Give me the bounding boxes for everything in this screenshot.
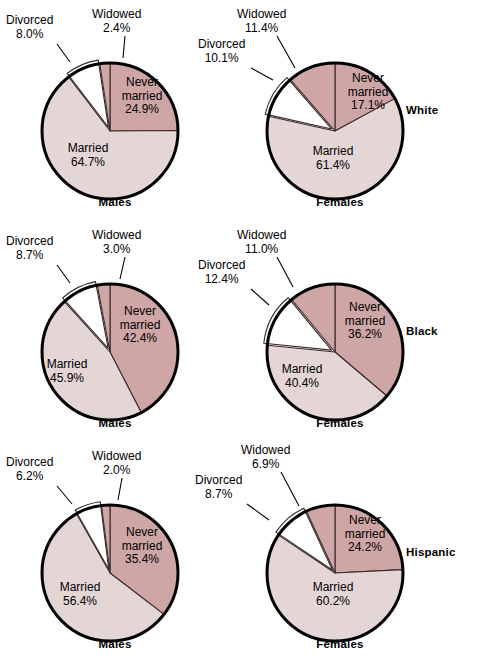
label-never-married-line1: Never <box>345 301 386 315</box>
sex-label-males: Males <box>0 638 230 650</box>
leader-line-widowed <box>123 36 125 58</box>
label-never-married: Nevermarried35.4% <box>122 526 163 567</box>
label-never-married-line2: married <box>345 527 386 541</box>
callout-divorced: Divorced8.0% <box>6 14 53 41</box>
callout-widowed-name: Widowed <box>92 229 141 243</box>
sex-label-females: Females <box>225 417 455 429</box>
pie-chart-black-males: Divorced8.7%Widowed3.0%Nevermarried42.4%… <box>0 221 230 443</box>
label-never-married-line1: Never <box>120 305 161 319</box>
label-married-line1: Married <box>282 363 323 377</box>
callout-widowed-name: Widowed <box>241 444 290 458</box>
label-married-line1: Married <box>60 581 101 595</box>
label-married-line2: 61.4% <box>313 158 354 172</box>
leader-line-widowed <box>118 478 122 500</box>
label-never-married-line2: married <box>348 85 389 99</box>
label-married-line2: 64.7% <box>68 155 109 169</box>
callout-divorced-name: Divorced <box>6 456 53 470</box>
label-married-line2: 56.4% <box>60 594 101 608</box>
label-never-married: Nevermarried24.2% <box>345 514 386 555</box>
label-married-line1: Married <box>313 145 354 159</box>
sex-label-females: Females <box>225 196 455 208</box>
label-married: Married64.7% <box>68 142 109 169</box>
label-married-line1: Married <box>47 358 88 372</box>
callout-divorced-value: 6.2% <box>6 470 53 484</box>
leader-line-widowed <box>277 36 295 68</box>
label-never-married-line2: married <box>122 89 163 103</box>
callout-widowed: Widowed11.4% <box>237 8 286 35</box>
label-married-line2: 60.2% <box>313 594 354 608</box>
label-married: Married61.4% <box>313 145 354 172</box>
pie-chart-white-males: Divorced8.0%Widowed2.4%Nevermarried24.9%… <box>0 0 230 222</box>
callout-widowed: Widowed11.0% <box>237 229 286 256</box>
callout-divorced-value: 10.1% <box>198 52 245 66</box>
callout-widowed-value: 11.0% <box>237 243 286 257</box>
callout-widowed: Widowed6.9% <box>241 444 290 471</box>
label-married: Married60.2% <box>313 581 354 608</box>
label-never-married-line2: married <box>120 318 161 332</box>
leader-line-divorced <box>57 265 70 283</box>
callout-widowed-value: 11.4% <box>237 22 286 36</box>
callout-widowed: Widowed2.4% <box>92 8 141 35</box>
callout-divorced-value: 12.4% <box>198 273 245 287</box>
callout-divorced-name: Divorced <box>6 235 53 249</box>
label-married-line2: 40.4% <box>282 376 323 390</box>
callout-divorced-value: 8.7% <box>195 488 242 502</box>
leader-line-divorced <box>251 289 269 305</box>
chart-row-white: WhiteDivorced8.0%Widowed2.4%Nevermarried… <box>0 0 488 222</box>
callout-divorced-name: Divorced <box>198 259 245 273</box>
label-never-married-line3: 24.2% <box>345 541 386 555</box>
label-never-married-line1: Never <box>122 526 163 540</box>
callout-widowed-value: 2.4% <box>92 22 141 36</box>
label-never-married: Nevermarried36.2% <box>345 301 386 342</box>
leader-line-widowed <box>120 257 125 279</box>
callout-widowed: Widowed2.0% <box>92 450 141 477</box>
label-married-line1: Married <box>313 581 354 595</box>
label-never-married: Nevermarried42.4% <box>120 305 161 346</box>
callout-widowed-name: Widowed <box>92 450 141 464</box>
callout-divorced-value: 8.0% <box>6 28 53 42</box>
callout-widowed-value: 6.9% <box>241 458 290 472</box>
leader-line-divorced <box>251 68 273 80</box>
label-never-married: Nevermarried24.9% <box>122 76 163 117</box>
callout-widowed-name: Widowed <box>92 8 141 22</box>
leader-line-widowed <box>277 257 293 287</box>
label-married: Married56.4% <box>60 581 101 608</box>
label-married-line1: Married <box>68 142 109 156</box>
callout-divorced: Divorced10.1% <box>198 38 245 65</box>
leader-line-divorced <box>57 486 72 504</box>
callout-divorced-name: Divorced <box>6 14 53 28</box>
callout-divorced-name: Divorced <box>195 474 242 488</box>
callout-divorced-name: Divorced <box>198 38 245 52</box>
leader-line-divorced <box>57 44 70 62</box>
label-married-line2: 45.9% <box>47 371 88 385</box>
label-never-married-line2: married <box>345 314 386 328</box>
label-never-married-line1: Never <box>345 514 386 528</box>
label-never-married-line3: 42.4% <box>120 332 161 346</box>
chart-row-hispanic: HispanicDivorced6.2%Widowed2.0%Nevermarr… <box>0 442 488 664</box>
pie-chart-white-females: Divorced10.1%Widowed11.4%Nevermarried17.… <box>225 0 455 222</box>
label-married: Married40.4% <box>282 363 323 390</box>
label-never-married-line3: 35.4% <box>122 553 163 567</box>
callout-divorced: Divorced6.2% <box>6 456 53 483</box>
label-married: Married45.9% <box>47 358 88 385</box>
sex-label-males: Males <box>0 417 230 429</box>
pie-chart-black-females: Divorced12.4%Widowed11.0%Nevermarried36.… <box>225 221 455 443</box>
callout-widowed-name: Widowed <box>237 8 286 22</box>
label-never-married-line3: 17.1% <box>348 99 389 113</box>
label-never-married-line3: 36.2% <box>345 328 386 342</box>
callout-widowed-value: 3.0% <box>92 243 141 257</box>
callout-widowed: Widowed3.0% <box>92 229 141 256</box>
label-never-married: Nevermarried17.1% <box>348 72 389 113</box>
sex-label-males: Males <box>0 196 230 208</box>
callout-divorced: Divorced8.7% <box>6 235 53 262</box>
label-never-married-line1: Never <box>348 72 389 86</box>
marital-status-pie-chart-figure: WhiteDivorced8.0%Widowed2.4%Nevermarried… <box>0 0 488 667</box>
label-never-married-line3: 24.9% <box>122 103 163 117</box>
callout-divorced-value: 8.7% <box>6 249 53 263</box>
pie-chart-hispanic-females: Divorced8.7%Widowed6.9%Nevermarried24.2%… <box>225 442 455 664</box>
label-never-married-line2: married <box>122 539 163 553</box>
leader-line-divorced <box>247 504 269 520</box>
callout-divorced: Divorced8.7% <box>195 474 242 501</box>
pie-graphic <box>225 442 455 664</box>
label-never-married-line1: Never <box>122 76 163 90</box>
